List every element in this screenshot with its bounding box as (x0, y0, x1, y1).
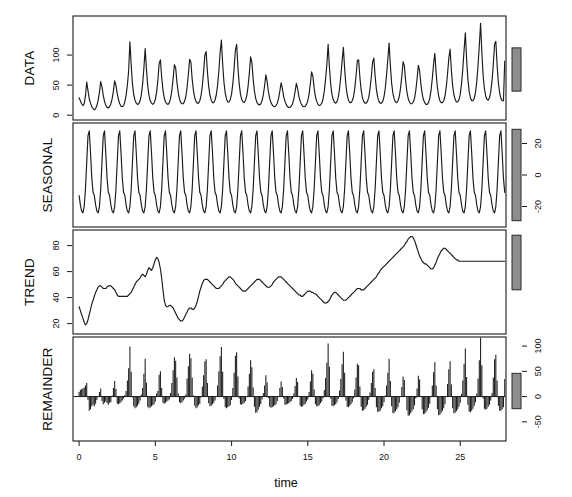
scale-bar (512, 129, 521, 220)
x-tick-label: 5 (153, 452, 158, 462)
y-tick-label: 80 (51, 241, 61, 251)
y-tick-label: 0 (533, 172, 543, 177)
scale-bar (512, 373, 521, 408)
x-tick-label: 15 (303, 452, 313, 462)
y-tick-label: 20 (51, 319, 61, 329)
y-tick-label: 0 (533, 394, 543, 399)
y-tick-label: 50 (533, 366, 543, 376)
y-tick-label: 40 (51, 293, 61, 303)
y-tick-label: 50 (51, 80, 61, 90)
x-tick-label: 20 (379, 452, 389, 462)
x-tick-label: 25 (455, 452, 465, 462)
panel-label-trend: TREND (22, 258, 37, 306)
y-tick-label: 100 (51, 48, 61, 63)
panel-label-data: DATA (22, 50, 37, 85)
panel-label-seasonal: SEASONAL (40, 137, 55, 212)
scale-bar (512, 235, 521, 290)
y-tick-label: -20 (533, 200, 543, 213)
y-tick-label: 0 (51, 113, 61, 118)
figure-background (0, 0, 572, 497)
stl-decomposition-figure: 050100DATA200-20SEASONAL20406080TREND100… (0, 0, 572, 497)
y-tick-label: 60 (51, 267, 61, 277)
x-tick-label: 0 (77, 452, 82, 462)
y-tick-label: -50 (533, 415, 543, 428)
x-tick-label: 10 (227, 452, 237, 462)
y-tick-label: 100 (533, 339, 543, 354)
y-tick-label: 20 (533, 138, 543, 148)
panel-label-remainder: REMAINDER (40, 347, 55, 431)
x-axis-title: time (274, 476, 298, 490)
scale-bar (512, 48, 521, 91)
